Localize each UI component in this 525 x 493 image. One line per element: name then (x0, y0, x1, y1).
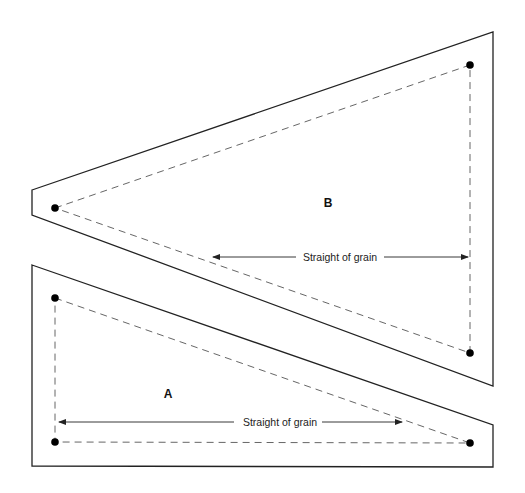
piece-b-corner-dot (466, 61, 474, 69)
piece-b-grain-label: Straight of grain (303, 251, 377, 263)
piece-a-corner-dot (51, 438, 59, 446)
piece-a-corner-dot (51, 294, 59, 302)
piece-b-corner-dot (51, 204, 59, 212)
piece-a-grain-label: Straight of grain (243, 416, 317, 428)
pattern-diagram: B Straight of grain A Straight of grain (0, 0, 525, 493)
piece-b-label: B (324, 196, 333, 210)
piece-b-corner-dot (466, 349, 474, 357)
piece-a-label: A (164, 387, 173, 401)
piece-a-corner-dot (466, 439, 474, 447)
